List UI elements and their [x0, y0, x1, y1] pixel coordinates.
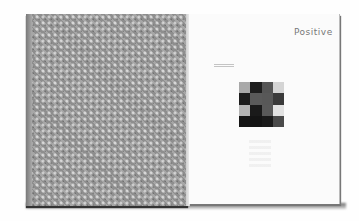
grid-cell — [250, 93, 261, 104]
grid-cell — [273, 82, 284, 93]
grid-cell — [262, 116, 273, 127]
grey-square-grid — [239, 82, 284, 127]
grid-cell — [239, 105, 250, 116]
page-title: Positive — [294, 27, 333, 37]
grid-cell — [273, 116, 284, 127]
grid-cell — [239, 93, 250, 104]
grid-cell — [262, 82, 273, 93]
right-page: Positive — [189, 14, 340, 204]
grid-cell — [239, 116, 250, 127]
photo-scene: Positive — [0, 0, 359, 221]
grid-cell — [262, 105, 273, 116]
cover-spine — [26, 14, 32, 206]
grid-cell — [250, 82, 261, 93]
grid-cell — [250, 116, 261, 127]
grid-cell — [262, 93, 273, 104]
grid-cell — [273, 93, 284, 104]
grid-cell — [250, 105, 261, 116]
ghost-print — [249, 137, 271, 167]
book-cover-bubble-wrap — [26, 14, 188, 206]
page-caption — [214, 64, 234, 68]
grid-cell — [239, 82, 250, 93]
grid-cell — [273, 105, 284, 116]
